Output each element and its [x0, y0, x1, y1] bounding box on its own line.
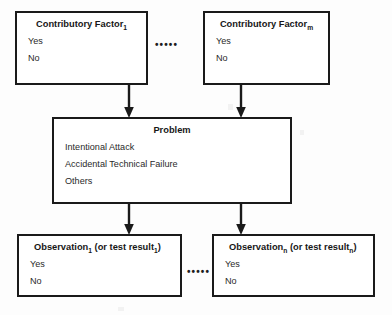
node-observation-n-body: Observationn (or test resultn) Yes No	[214, 236, 373, 286]
option-no[interactable]: No	[23, 276, 176, 286]
ellipsis-bottom: •••••	[187, 267, 210, 277]
node-problem-title: Problem	[58, 125, 286, 135]
node-title-text: Contributory Factor	[36, 19, 123, 29]
node-title-text-2: (or test result	[287, 242, 349, 252]
node-contributory-factor-1-title: Contributory Factor1	[21, 19, 142, 29]
option-yes[interactable]: Yes	[21, 36, 142, 46]
node-title-subscript: m	[307, 24, 313, 31]
node-title-subscript: 1	[123, 24, 127, 31]
flowchart-diagram: Contributory Factor1 Yes No ••••• Contri…	[0, 0, 392, 315]
node-observation-1-body: Observation1 (or test result1) Yes No	[19, 236, 180, 286]
node-title-text-3: )	[353, 242, 356, 252]
node-title-text: Observation	[229, 242, 283, 252]
option-accidental-technical-failure[interactable]: Accidental Technical Failure	[58, 159, 286, 169]
node-title-text: Contributory Factor	[220, 19, 307, 29]
node-title-text-3: )	[158, 242, 161, 252]
node-problem[interactable]: Problem Intentional Attack Accidental Te…	[52, 117, 292, 204]
node-title-text-2: (or test result	[92, 242, 154, 252]
option-yes[interactable]: Yes	[209, 36, 324, 46]
option-others[interactable]: Others	[58, 176, 286, 186]
node-contributory-factor-1[interactable]: Contributory Factor1 Yes No	[15, 11, 148, 85]
node-observation-n[interactable]: Observationn (or test resultn) Yes No	[212, 234, 375, 297]
ellipsis-top: •••••	[155, 40, 178, 50]
scan-artifact	[118, 307, 124, 311]
node-title-text: Observation	[34, 242, 88, 252]
node-problem-body: Problem Intentional Attack Accidental Te…	[54, 119, 290, 186]
option-no[interactable]: No	[209, 53, 324, 63]
node-contributory-factor-m[interactable]: Contributory Factorm Yes No	[203, 11, 330, 85]
node-contributory-factor-1-body: Contributory Factor1 Yes No	[17, 13, 146, 63]
option-yes[interactable]: Yes	[23, 259, 176, 269]
node-observation-1[interactable]: Observation1 (or test result1) Yes No	[17, 234, 182, 297]
option-no[interactable]: No	[218, 276, 369, 286]
node-observation-n-title: Observationn (or test resultn)	[218, 242, 369, 252]
node-contributory-factor-m-title: Contributory Factorm	[209, 19, 324, 29]
option-no[interactable]: No	[21, 53, 142, 63]
scan-artifact	[300, 130, 304, 135]
node-observation-1-title: Observation1 (or test result1)	[23, 242, 176, 252]
option-intentional-attack[interactable]: Intentional Attack	[58, 142, 286, 152]
node-contributory-factor-m-body: Contributory Factorm Yes No	[205, 13, 328, 63]
option-yes[interactable]: Yes	[218, 259, 369, 269]
